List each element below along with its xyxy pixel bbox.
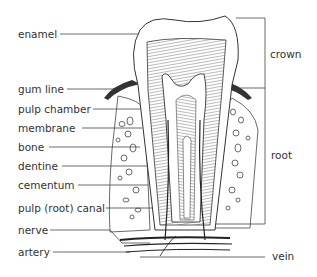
- label-dentine: dentine: [18, 160, 58, 172]
- label-gum-line: gum line: [18, 83, 64, 95]
- label-vein: vein: [272, 250, 294, 262]
- label-bone: bone: [18, 141, 44, 153]
- label-crown: crown: [270, 48, 302, 60]
- label-nerve: nerve: [18, 224, 48, 236]
- label-pulp-chamber: pulp chamber: [18, 103, 91, 115]
- label-enamel: enamel: [18, 28, 57, 40]
- label-artery: artery: [18, 246, 50, 258]
- label-membrane: membrane: [18, 122, 75, 134]
- tooth-diagram: enamel gum line pulp chamber membrane bo…: [0, 0, 317, 277]
- canal-core: [183, 136, 191, 218]
- label-pulp-root-canal: pulp (root) canal: [18, 202, 105, 214]
- label-root: root: [271, 149, 292, 161]
- label-cementum: cementum: [18, 179, 75, 191]
